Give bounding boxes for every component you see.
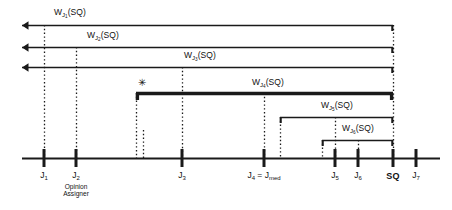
axis-tick-label-J7: J7 <box>412 171 420 181</box>
axis-tick-label-J2: J2OpinionAssigner <box>63 171 89 198</box>
interval-label-WJ3: WJ3(SQ) <box>184 51 216 62</box>
figure-canvas: WJ1(SQ)WJ2(SQ)WJ3(SQ)WJ4(SQ)✳WJ5(SQ)WJ6(… <box>0 0 452 210</box>
interval-label-WJ5: WJ5(SQ) <box>321 101 353 112</box>
interval-arrowhead-WJ1 <box>22 21 29 29</box>
axis-tick-label-J6: J6 <box>354 171 362 181</box>
axis-tick-label-J3: J3 <box>178 171 186 181</box>
dotted-guide-lines-group <box>45 25 394 158</box>
interval-bars-group <box>22 21 393 146</box>
axis-tick-label-J4: J4 = Jmed <box>247 171 280 181</box>
interval-label-WJ4: WJ4(SQ) <box>252 78 284 89</box>
interval-arrowhead-WJ2 <box>22 43 29 51</box>
timeline-axis-group <box>22 149 440 167</box>
interval-label-WJ2: WJ2(SQ) <box>87 31 119 42</box>
interval-label-WJ1: WJ1(SQ) <box>54 8 86 19</box>
axis-tick-label-SQ: SQ <box>386 171 399 181</box>
axis-tick-label-J5: J5 <box>331 171 339 181</box>
axis-tick-label-J1: J1 <box>40 171 48 181</box>
asterisk-marker-icon: ✳ <box>138 78 146 88</box>
interval-label-WJ6: WJ6(SQ) <box>342 124 374 135</box>
interval-arrowhead-WJ3 <box>22 63 29 71</box>
